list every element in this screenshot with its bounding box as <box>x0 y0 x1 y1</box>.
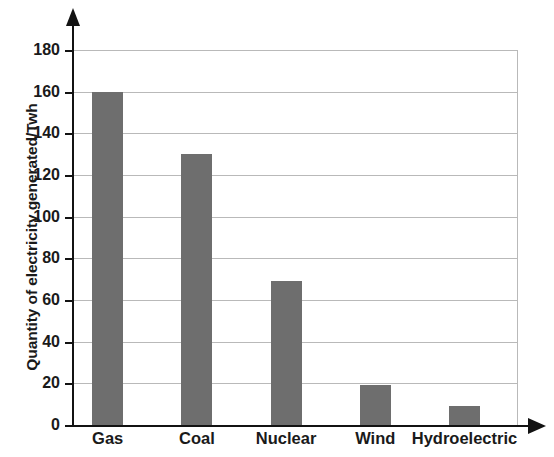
y-axis-tick-label: 140 <box>14 124 60 142</box>
plot-right-border <box>517 50 518 425</box>
bar-gas <box>92 92 123 425</box>
gridline <box>72 175 518 176</box>
x-axis-arrow-icon <box>528 418 546 434</box>
x-axis-label-gas: Gas <box>92 429 123 448</box>
bar-wind <box>360 385 391 425</box>
y-axis-tick-label: 0 <box>14 416 60 434</box>
x-axis-label-coal: Coal <box>179 429 215 448</box>
bar-nuclear <box>271 281 302 425</box>
y-axis-tick-label: 40 <box>14 333 60 351</box>
bar-coal <box>181 154 212 425</box>
y-axis-arrow-icon <box>66 8 80 26</box>
plot-area <box>72 50 518 425</box>
x-axis-label-nuclear: Nuclear <box>256 429 317 448</box>
gridline <box>72 92 518 93</box>
gridline <box>72 258 518 259</box>
bar-chart: Quantity of electricity generated/Twh 02… <box>0 0 554 457</box>
y-axis-tick-label: 120 <box>14 166 60 184</box>
y-axis-tick-label: 60 <box>14 291 60 309</box>
y-axis-tick-label: 180 <box>14 41 60 59</box>
y-axis-tick-label: 20 <box>14 374 60 392</box>
x-axis-line <box>72 425 529 427</box>
y-axis-tick-label: 160 <box>14 83 60 101</box>
y-axis-tick-label: 100 <box>14 208 60 226</box>
y-axis-tick-label: 80 <box>14 249 60 267</box>
gridline <box>72 50 518 51</box>
x-axis-label-wind: Wind <box>355 429 395 448</box>
gridline <box>72 217 518 218</box>
x-axis-label-hydroelectric: Hydroelectric <box>412 429 517 448</box>
bar-hydroelectric <box>449 406 480 425</box>
y-axis-line <box>72 22 74 426</box>
gridline <box>72 133 518 134</box>
